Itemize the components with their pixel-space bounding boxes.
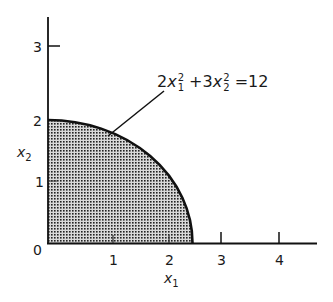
x-axis-label: x1 xyxy=(164,271,179,289)
y-tick-label-1: 1 xyxy=(35,175,44,189)
x-tick-label-4: 4 xyxy=(275,253,284,267)
y-axis-label: x2 xyxy=(17,145,32,163)
equation-leader-line xyxy=(108,91,164,136)
x-tick-label-2: 2 xyxy=(165,253,174,267)
x-tick-label-3: 3 xyxy=(217,253,226,267)
y-tick-label-2: 2 xyxy=(33,114,42,128)
eq-var2: x xyxy=(213,72,222,91)
eq-rhs: =12 xyxy=(230,72,269,91)
shaded-feasible-region xyxy=(48,120,193,243)
y-axis-label-sub: 2 xyxy=(25,152,31,163)
x-axis-label-sub: 1 xyxy=(172,278,178,289)
y-tick-label-3: 3 xyxy=(33,40,42,54)
ellipse-equation-label: 2x21 +3x22 =12 xyxy=(157,72,268,93)
eq-coef1: 2 xyxy=(157,72,167,91)
eq-var1: x xyxy=(167,72,176,91)
eq-plus-coef2: +3 xyxy=(184,72,213,91)
x-tick-label-1: 1 xyxy=(109,253,118,267)
x-tick-label-0: 0 xyxy=(33,243,42,257)
